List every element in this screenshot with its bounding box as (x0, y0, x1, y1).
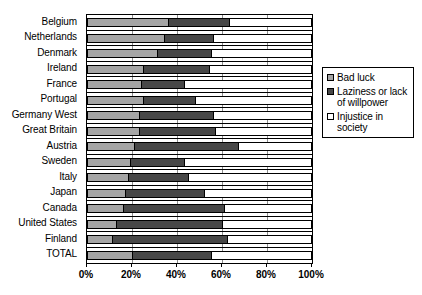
bar-segment (87, 96, 143, 105)
x-tick-label: 80% (256, 269, 276, 280)
bar-segment (134, 142, 238, 151)
x-tick-label: 60% (211, 269, 231, 280)
bar-segment (188, 173, 312, 182)
legend-label: Bad luck (337, 72, 375, 83)
legend-item[interactable]: Laziness or lack of willpower (327, 86, 410, 108)
bar-segment (139, 127, 216, 136)
bar-segment (238, 142, 312, 151)
bar-segment (128, 173, 189, 182)
category-label: France (0, 76, 82, 92)
bar-segment (184, 80, 312, 89)
stacked-bar (87, 158, 312, 167)
bar-row (87, 62, 312, 78)
x-tick (131, 263, 132, 267)
category-axis-labels: BelgiumNetherlandsDenmarkIrelandFrancePo… (0, 14, 82, 262)
bar-row (87, 77, 312, 93)
x-tick (266, 263, 267, 267)
bar-segment (157, 49, 211, 58)
bar-segment (116, 220, 222, 229)
category-label: Ireland (0, 61, 82, 77)
category-label: Great Britain (0, 123, 82, 139)
bar-segment (215, 127, 312, 136)
stacked-bar (87, 142, 312, 151)
bar-segment (211, 251, 312, 260)
bar-row (87, 15, 312, 31)
bar-row (87, 46, 312, 62)
bar-segment (125, 189, 204, 198)
badluck-swatch (327, 74, 334, 81)
category-label: Portugal (0, 92, 82, 108)
bar-row (87, 201, 312, 217)
x-tick-label: 100% (298, 269, 324, 280)
stacked-bar (87, 220, 312, 229)
legend-item[interactable]: Injustice in society (327, 111, 410, 133)
bar-segment (143, 96, 195, 105)
category-label: Denmark (0, 45, 82, 61)
legend-item[interactable]: Bad luck (327, 72, 410, 83)
bar-segment (87, 158, 130, 167)
stacked-bar (87, 235, 312, 244)
bar-segment (130, 158, 184, 167)
x-tick (311, 263, 312, 267)
bar-segment (87, 127, 139, 136)
legend-label: Laziness or lack of willpower (337, 86, 410, 108)
bar-segment (87, 235, 112, 244)
bar-segment (141, 80, 184, 89)
stacked-bar (87, 173, 312, 182)
bar-segment (227, 235, 313, 244)
stacked-bar (87, 80, 312, 89)
bar-row (87, 248, 312, 264)
stacked-bar (87, 18, 312, 27)
x-tick-label: 0% (79, 269, 93, 280)
stacked-bar (87, 189, 312, 198)
x-tick (86, 263, 87, 267)
bar-segment (213, 111, 312, 120)
plot-area (86, 14, 313, 264)
bar-segment (87, 18, 168, 27)
stacked-bar (87, 204, 312, 213)
bar-segment (224, 204, 312, 213)
stacked-bar (87, 34, 312, 43)
bar-segment (209, 65, 313, 74)
category-label: United States (0, 216, 82, 232)
x-tick (221, 263, 222, 267)
x-axis: 0%20%40%60%80%100% (86, 263, 312, 289)
bar-segment (87, 65, 143, 74)
bar-segment (87, 173, 128, 182)
bar-row (87, 170, 312, 186)
bar-segment (87, 49, 157, 58)
bar-row (87, 232, 312, 248)
category-label: Italy (0, 169, 82, 185)
stacked-bar (87, 251, 312, 260)
legend-label: Injustice in society (337, 111, 410, 133)
category-label: Belgium (0, 14, 82, 30)
bar-segment (143, 65, 208, 74)
category-label: Finland (0, 231, 82, 247)
bar-row (87, 217, 312, 233)
bar-segment (112, 235, 227, 244)
stacked-bar (87, 49, 312, 58)
category-label: Japan (0, 185, 82, 201)
x-tick (176, 263, 177, 267)
bar-segment (211, 49, 312, 58)
bar-segment (184, 158, 312, 167)
stacked-bar (87, 111, 312, 120)
stacked-bar (87, 96, 312, 105)
bar-segment (132, 251, 211, 260)
bar-segment (87, 111, 139, 120)
bar-segment (87, 34, 164, 43)
category-label: Austria (0, 138, 82, 154)
bar-segment (87, 80, 141, 89)
injustice-swatch (327, 113, 334, 120)
stacked-bar (87, 65, 312, 74)
stacked-bar (87, 127, 312, 136)
category-label: Canada (0, 200, 82, 216)
bar-segment (139, 111, 213, 120)
bar-segment (213, 34, 312, 43)
bar-segment (222, 220, 312, 229)
category-label: Sweden (0, 154, 82, 170)
legend: Bad luckLaziness or lack of willpowerInj… (322, 67, 414, 138)
category-label: Germany West (0, 107, 82, 123)
bar-segment (168, 18, 229, 27)
bar-row (87, 124, 312, 140)
